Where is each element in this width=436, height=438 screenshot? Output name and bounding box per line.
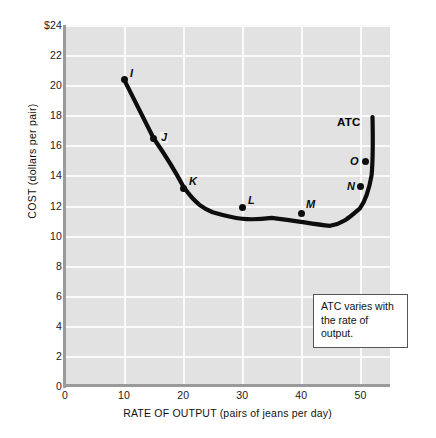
x-tick-label: 20 bbox=[163, 390, 203, 401]
data-point-M bbox=[298, 210, 305, 217]
y-axis-title-host: COST (dollars per pair) bbox=[0, 0, 1, 1]
y-axis-title: COST (dollars per pair) bbox=[26, 51, 38, 271]
x-tick-label: 10 bbox=[104, 390, 144, 401]
data-point-L bbox=[239, 204, 246, 211]
x-axis-line bbox=[63, 384, 390, 387]
y-axis-line bbox=[63, 25, 66, 388]
gridline-vertical bbox=[301, 25, 303, 386]
gridline-horizontal bbox=[65, 206, 390, 208]
data-point-label-J: J bbox=[160, 132, 168, 143]
data-point-label-K: K bbox=[189, 176, 197, 187]
x-tick-label: 30 bbox=[222, 390, 262, 401]
y-tick-label: 6 bbox=[4, 291, 62, 301]
data-point-K bbox=[180, 185, 187, 192]
x-axis-title: RATE OF OUTPUT (pairs of jeans per day) bbox=[65, 407, 390, 419]
annotation-callout: ATC varies with the rate of output. bbox=[313, 294, 408, 348]
atc-cost-curve-chart: $24 22 20 18 16 14 12 10 8 6 4 2 0 0 10 … bbox=[0, 0, 436, 438]
data-point-O bbox=[362, 158, 369, 165]
data-point-label-M: M bbox=[306, 199, 315, 210]
gridline-horizontal bbox=[65, 236, 390, 238]
data-point-I bbox=[121, 76, 128, 83]
series-label-atc: ATC bbox=[337, 116, 361, 128]
y-tick-label: 4 bbox=[4, 321, 62, 331]
annotation-callout-line-1: ATC varies with bbox=[321, 300, 401, 314]
gridline-horizontal bbox=[65, 25, 390, 27]
gridline-horizontal bbox=[65, 266, 390, 268]
gridline-horizontal bbox=[65, 145, 390, 147]
data-point-label-N: N bbox=[347, 181, 355, 192]
x-tick-label: 0 bbox=[45, 390, 85, 401]
x-tick-label: 40 bbox=[281, 390, 321, 401]
gridline-vertical bbox=[183, 25, 185, 386]
gridline-horizontal bbox=[65, 356, 390, 358]
gridline-horizontal bbox=[65, 175, 390, 177]
annotation-callout-line-2: the rate of output. bbox=[321, 314, 401, 341]
data-point-label-L: L bbox=[248, 195, 255, 206]
data-point-label-O: O bbox=[350, 156, 359, 167]
data-point-label-I: I bbox=[130, 68, 133, 79]
gridline-horizontal bbox=[65, 55, 390, 57]
y-tick-label: 2 bbox=[4, 351, 62, 361]
gridline-horizontal bbox=[65, 85, 390, 87]
x-tick-label: 50 bbox=[340, 390, 380, 401]
y-tick-label: $24 bbox=[4, 20, 62, 30]
data-point-J bbox=[150, 135, 157, 142]
